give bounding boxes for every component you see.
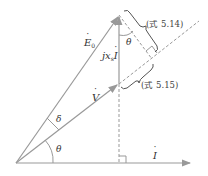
theta-angle-arc-bottom	[45, 140, 53, 163]
i-label: I	[153, 151, 157, 161]
e0-subscript: 0	[91, 42, 95, 49]
upper-brace-label: (式 5.14)	[146, 20, 183, 29]
phasor-diagram: E0 jxsI V I δ θ θ (式 5.14) (式 5.15)	[0, 0, 208, 176]
jxsi-current: I	[114, 51, 118, 61]
i-label-text: I	[153, 151, 157, 161]
jxsi-prefix: jx	[102, 50, 111, 61]
v-label: V	[92, 93, 99, 103]
e0-label-text: E	[84, 38, 91, 48]
theta-label-bottom: θ	[56, 145, 61, 154]
e0-vector-line	[16, 17, 118, 163]
delta-label: δ	[56, 115, 61, 124]
lower-brace-label: (式 5.15)	[141, 81, 178, 90]
right-angle-marker-bottom	[119, 156, 126, 163]
jxsi-label: jxsI	[102, 51, 118, 62]
v-vector-line	[16, 85, 117, 163]
e0-label: E0	[84, 38, 95, 49]
v-label-text: V	[92, 93, 99, 103]
v-extension-dashed	[119, 21, 199, 84]
theta-label-top: θ	[126, 38, 131, 47]
